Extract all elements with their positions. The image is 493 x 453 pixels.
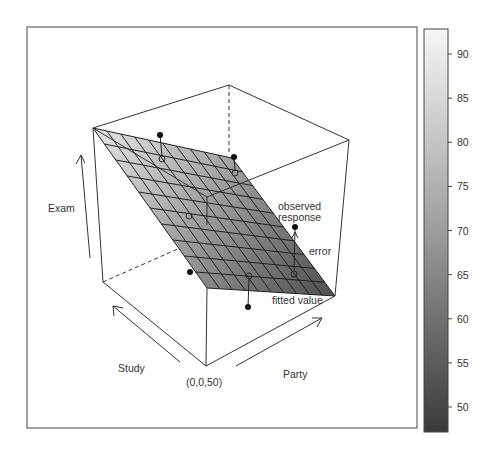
observed-point [157,132,163,138]
z-axis-label: Exam [48,202,75,214]
colorbar-tick-label: 90 [457,48,469,60]
colorbar-tick-label: 85 [457,92,469,104]
exam-arrow [81,155,90,258]
observed-point [231,154,237,160]
origin-label: (0,0,50) [186,376,222,388]
colorbar-tick-label: 75 [457,180,469,192]
colorbar: 505560657075808590 [424,29,469,432]
points-below [187,269,193,275]
colorbar-tick-label: 70 [457,225,469,237]
y-axis-label: Party [283,368,308,380]
colorbar-tick-label: 80 [457,136,469,148]
x-axis-label: Study [118,362,146,374]
error-annotation: error [309,245,332,257]
regression-3d-plot: Exam Study Party (0,0,50) observed respo… [0,0,493,453]
response-annotation: response [278,211,321,223]
colorbar-tick-label: 65 [457,269,469,281]
fitted-annotation: fitted value [272,294,323,306]
colorbar-tick-label: 55 [457,357,469,369]
study-arrow [113,306,180,362]
response-text: response [278,211,321,223]
party-arrow [236,318,322,366]
colorbar-tick-label: 50 [457,401,469,413]
observed-point [187,269,193,275]
colorbar-tick-label: 60 [457,313,469,325]
observed-point [292,224,298,230]
observed-point [245,304,251,310]
